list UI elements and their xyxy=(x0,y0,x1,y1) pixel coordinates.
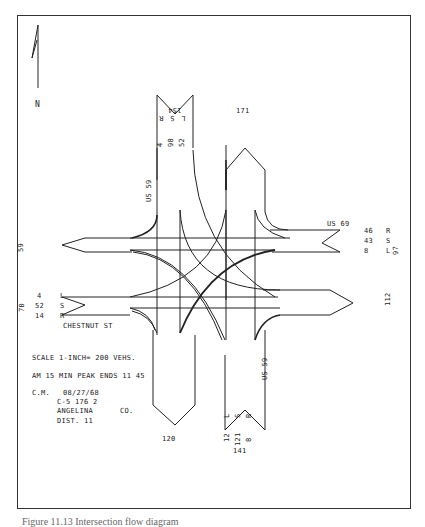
north-movement-vol-r: 4 xyxy=(157,142,164,147)
west-movement-vol-l: 4 xyxy=(37,293,42,300)
east-road-label: US 69 xyxy=(327,221,350,228)
west-movement-dir-r: R xyxy=(60,313,65,320)
scale-note: SCALE 1-INCH= 200 VEHS. xyxy=(32,355,136,362)
west-movement-vol-r: 14 xyxy=(35,313,44,320)
south-movement-dir-l: L xyxy=(224,413,231,418)
north-label: N xyxy=(35,101,40,108)
north-exit-total: 171 xyxy=(236,108,250,115)
west-exit-total: 59 xyxy=(18,243,25,252)
east-movement-vol-s: 43 xyxy=(364,238,373,245)
station-note: C-5 176 2 xyxy=(57,399,98,406)
west-movement-vol-s: 52 xyxy=(35,303,44,310)
east-approach-band xyxy=(270,230,340,252)
south-movement-vol-r: 8 xyxy=(246,437,253,442)
east-movement-dir-l: L xyxy=(386,248,391,255)
observer-note: C.M. xyxy=(32,390,50,397)
south-movement-dir-s: S xyxy=(235,413,242,418)
east-exit-arrow xyxy=(263,290,353,315)
east-approach-total: 97 xyxy=(393,246,400,255)
west-exit-arrow xyxy=(62,238,132,252)
north-arrow-icon xyxy=(32,25,38,88)
county-suffix-note: CO. xyxy=(120,408,134,415)
date-note: 08/27/68 xyxy=(63,390,99,397)
north-road-label: US 59 xyxy=(146,179,153,202)
west-movement-dir-s: S xyxy=(60,303,65,310)
south-exit-total: 120 xyxy=(162,436,176,443)
west-approach-band xyxy=(62,297,130,315)
south-movement-vol-s: 121 xyxy=(235,432,242,446)
south-movement-dir-r: R xyxy=(246,413,253,418)
figure-caption: Figure 11.13 Intersection flow diagram xyxy=(22,516,179,527)
east-exit-total: 112 xyxy=(385,292,392,306)
west-road-label: CHESTNUT ST xyxy=(63,323,113,330)
east-movement-dir-r: R xyxy=(386,228,391,235)
east-movement-vol-r: 46 xyxy=(364,228,373,235)
district-note: DIST. 11 xyxy=(57,418,93,425)
north-movement-vol-l: 52 xyxy=(179,138,186,147)
north-approach-total: 154 xyxy=(168,106,182,113)
west-approach-total: 70 xyxy=(19,303,26,312)
east-movement-dir-s: S xyxy=(386,238,391,245)
west-movement-dir-l: L xyxy=(60,293,65,300)
county-note: ANGELINA xyxy=(57,408,93,415)
south-movement-vol-l: 12 xyxy=(224,433,231,442)
north-movement-dir-s: S xyxy=(170,114,175,121)
south-exit-arrow xyxy=(153,330,195,425)
north-movement-dir-l: L xyxy=(181,114,186,121)
peak-note: AM 15 MIN PEAK ENDS 11 45 xyxy=(32,373,145,380)
north-exit-arrow xyxy=(226,148,265,300)
north-movement-vol-s: 98 xyxy=(168,138,175,147)
south-approach-total: 141 xyxy=(233,448,247,455)
east-movement-vol-l: 8 xyxy=(364,248,369,255)
south-road-label: US 59 xyxy=(262,357,269,380)
north-movement-dir-r: R xyxy=(159,114,164,121)
